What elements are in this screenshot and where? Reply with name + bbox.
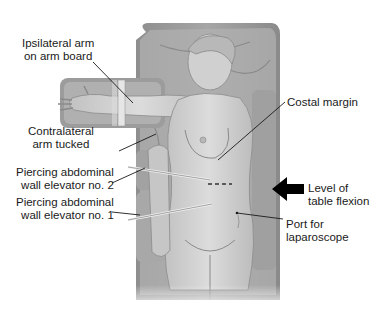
- arm-strap-2: [112, 80, 117, 126]
- label-table-flexion: Level of table flexion: [308, 182, 369, 208]
- label-elevator-2: Piercing abdominal wall elevator no. 2: [16, 166, 114, 192]
- label-contralateral-arm: Contralateral arm tucked: [28, 125, 94, 151]
- label-port-laparoscope: Port for laparoscope: [286, 218, 349, 244]
- torso: [165, 93, 254, 290]
- label-elevator-1: Piercing abdominal wall elevator no. 1: [16, 196, 114, 222]
- label-costal-margin: Costal margin: [287, 96, 358, 109]
- nipple: [200, 137, 206, 143]
- contralateral-arm: [148, 145, 170, 257]
- port-dot: [236, 212, 239, 215]
- label-ipsilateral-arm: Ipsilateral arm on arm board: [22, 37, 94, 63]
- leader-elevator-1: [112, 212, 140, 215]
- bottom-fade: [130, 285, 290, 310]
- right-side-pad: [252, 90, 276, 270]
- arm-strap-1: [118, 80, 125, 126]
